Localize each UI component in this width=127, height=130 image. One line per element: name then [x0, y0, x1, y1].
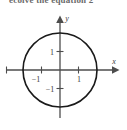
- y-tick-label-pos-one: 1: [50, 48, 54, 57]
- x-tick-label-neg-one: −1: [32, 75, 41, 84]
- plot-svg: −1 1 1 −1 x y: [0, 0, 127, 130]
- y-axis-arrow-icon: [56, 16, 64, 24]
- y-axis-label: y: [64, 14, 69, 23]
- y-tick-label-neg-one: −1: [46, 85, 55, 94]
- x-axis-label: x: [111, 57, 116, 66]
- figure-container: ecolve the equation 2 −1 1 1: [0, 0, 127, 130]
- x-tick-label-pos-one: 1: [77, 75, 81, 84]
- x-axis-arrow-icon: [112, 66, 120, 74]
- unit-circle-plot: −1 1 1 −1 x y: [0, 0, 127, 130]
